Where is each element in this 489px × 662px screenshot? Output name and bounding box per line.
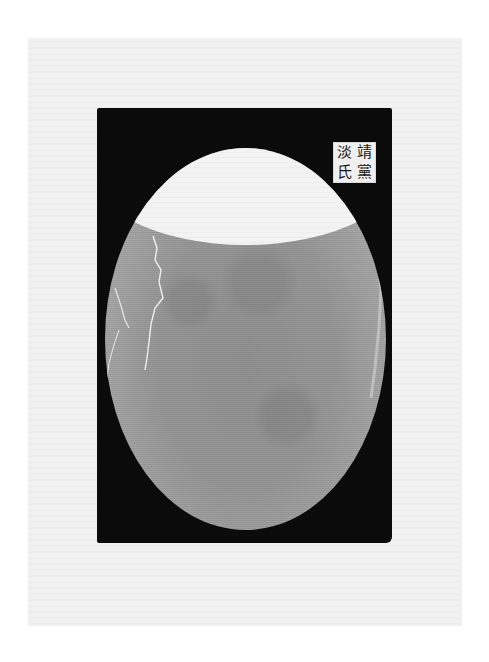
seal-char: 黨 xyxy=(355,163,376,183)
seal-char: 淡 xyxy=(334,143,355,163)
crack-lines xyxy=(105,148,386,530)
oval-rubbing xyxy=(105,148,386,530)
seal-char: 靖 xyxy=(355,143,376,163)
seal-stamp: 靖 淡 黨 氏 xyxy=(333,142,376,183)
seal-char: 氏 xyxy=(334,163,355,183)
black-mount: 靖 淡 黨 氏 xyxy=(97,108,392,543)
